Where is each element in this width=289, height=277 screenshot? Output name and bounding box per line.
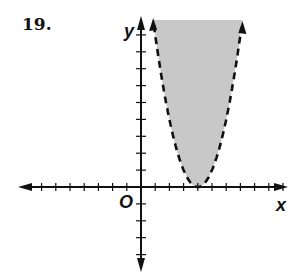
x-axis-label: x bbox=[275, 195, 287, 215]
shaded-region bbox=[153, 20, 242, 187]
axes bbox=[18, 16, 288, 272]
coordinate-plane: y x O bbox=[0, 0, 289, 277]
y-axis-label: y bbox=[123, 21, 135, 41]
origin-label: O bbox=[119, 192, 133, 212]
